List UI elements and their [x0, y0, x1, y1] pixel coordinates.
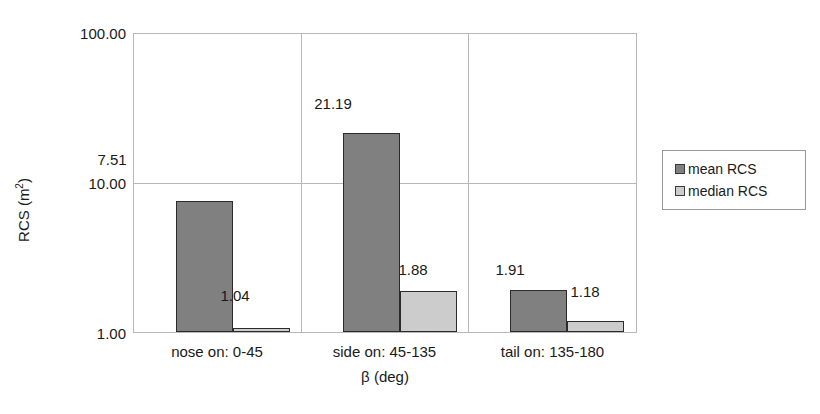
data-label-mean-tail-on: 1.91 [470, 262, 550, 277]
bar-median-tail-on [567, 321, 624, 332]
legend-label-median-rcs: median RCS [688, 182, 767, 200]
group-separator-1 [301, 34, 302, 332]
y-tick-label-10: 10.00 [34, 176, 126, 191]
data-label-mean-nose-on: 7.51 [40, 152, 184, 167]
legend-label-mean-rcs: mean RCS [688, 160, 756, 178]
y-axis-ticks: 100.00 10.00 1.00 [30, 0, 126, 414]
rcs-bar-chart-figure: RCS (m2) 100.00 10.00 1.00 7.51 1.04 21.… [0, 0, 820, 414]
bar-median-side-on [400, 291, 457, 332]
data-label-median-tail-on: 1.18 [545, 284, 625, 299]
group-separator-2 [468, 34, 469, 332]
bar-median-nose-on [233, 328, 290, 332]
legend-swatch-median-icon [675, 186, 685, 196]
bar-mean-side-on [343, 133, 400, 332]
x-category-label-side-on: side on: 45-135 [301, 343, 468, 360]
data-label-median-nose-on: 1.04 [195, 288, 275, 303]
x-category-label-nose-on: nose on: 0-45 [133, 343, 301, 360]
x-category-label-tail-on: tail on: 135-180 [468, 343, 637, 360]
legend-item-mean-rcs[interactable]: mean RCS [663, 158, 805, 180]
y-axis-title-superscript: 2 [14, 183, 25, 189]
chart-legend: mean RCS median RCS [662, 150, 806, 210]
legend-item-median-rcs[interactable]: median RCS [663, 180, 805, 202]
x-axis-title: β (deg) [133, 368, 637, 385]
y-tick-label-1: 1.00 [34, 326, 126, 341]
y-tick-label-100: 100.00 [34, 26, 126, 41]
bar-mean-nose-on [176, 201, 233, 332]
data-label-mean-side-on: 21.19 [278, 96, 388, 111]
data-label-median-side-on: 1.88 [373, 262, 453, 277]
legend-swatch-mean-icon [675, 164, 685, 174]
